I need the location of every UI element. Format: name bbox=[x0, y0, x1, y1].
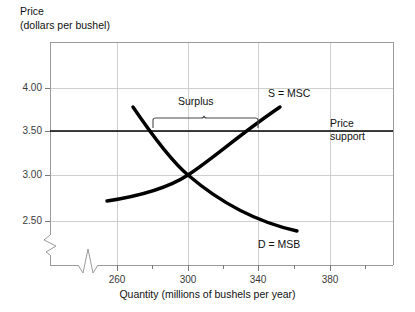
xtick-label-340: 340 bbox=[238, 274, 278, 285]
price-support-label-line2: support bbox=[330, 130, 365, 143]
xtick-label-260: 260 bbox=[97, 274, 137, 285]
supply-curve bbox=[107, 107, 280, 201]
x-axis-label: Quantity (millions of bushels per year) bbox=[0, 288, 415, 300]
ytick-label-3.50: 3.50 bbox=[8, 125, 42, 136]
plot-frame bbox=[50, 42, 393, 265]
x-tick-marks bbox=[117, 265, 365, 271]
ytick-label-2.50: 2.50 bbox=[8, 215, 42, 226]
surplus-label: Surplus bbox=[178, 95, 214, 108]
surplus-bracket bbox=[153, 116, 258, 128]
y-tick-marks bbox=[45, 88, 50, 221]
price-support-label-line1: Price bbox=[330, 117, 354, 130]
y-axis-break-icon bbox=[44, 235, 56, 255]
xtick-label-380: 380 bbox=[310, 274, 350, 285]
x-axis-break-icon bbox=[78, 249, 98, 273]
demand-curve-label: D = MSB bbox=[258, 238, 300, 251]
demand-curve bbox=[133, 107, 297, 231]
ytick-label-3.00: 3.00 bbox=[8, 169, 42, 180]
ytick-label-4.00: 4.00 bbox=[8, 82, 42, 93]
plot-area bbox=[0, 0, 415, 312]
xtick-label-300: 300 bbox=[168, 274, 208, 285]
supply-curve-label: S = MSC bbox=[268, 87, 310, 100]
chart-figure: Price (dollars per bushel) bbox=[0, 0, 415, 312]
